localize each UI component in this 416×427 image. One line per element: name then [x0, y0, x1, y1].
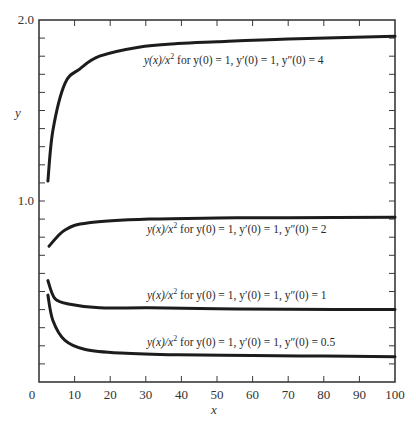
x-tick-label: 20	[104, 387, 117, 402]
x-axis-label: x	[210, 402, 217, 417]
line-chart: 01020304050607080901002.01.0 y(x)/x2 for…	[0, 0, 416, 427]
curves	[48, 36, 395, 356]
x-tick-label: 70	[282, 387, 295, 402]
curve-annotations: y(x)/x2 for y(0) = 1, y′(0) = 1, y″(0) =…	[143, 52, 335, 349]
x-tick-label: 0	[29, 387, 36, 402]
curve-label-3: y(x)/x2 for y(0) = 1, y′(0) = 1, y″(0) =…	[146, 287, 327, 302]
curve-label-1: y(x)/x2 for y(0) = 1, y′(0) = 1, y″(0) =…	[143, 52, 324, 67]
x-tick-label: 30	[139, 387, 152, 402]
x-tick-label: 50	[211, 387, 224, 402]
plot-border	[39, 20, 395, 382]
y-axis-label: y	[13, 105, 21, 120]
x-tick-label: 60	[246, 387, 259, 402]
axis-ticks	[39, 20, 395, 382]
x-tick-label: 90	[353, 387, 366, 402]
y-tick-label: 2.0	[18, 12, 34, 27]
x-tick-label: 40	[175, 387, 188, 402]
x-tick-label: 80	[317, 387, 330, 402]
plot-frame	[39, 20, 395, 382]
curve-label-4: y(x)/x2 for y(0) = 1, y′(0) = 1, y″(0) =…	[146, 334, 335, 349]
y-tick-label: 1.0	[18, 193, 34, 208]
x-tick-label: 10	[68, 387, 81, 402]
x-tick-label: 100	[385, 387, 405, 402]
curve-label-2: y(x)/x2 for y(0) = 1, y′(0) = 1, y″(0) =…	[146, 221, 327, 236]
